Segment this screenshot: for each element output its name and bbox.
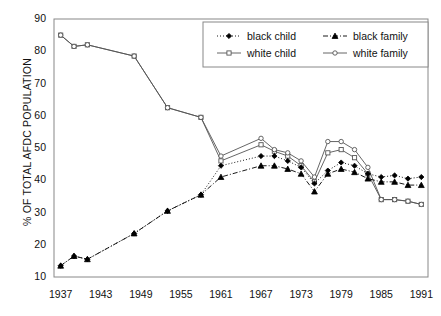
legend-label-black-family: black family [353,30,409,42]
series-layer [58,33,424,268]
afdc-population-line-chart: % OF TOTAL AFDC POPULATION 1020304050607… [0,0,441,316]
legend-label-white-family: white family [352,47,409,59]
legend-label-black-child: black child [247,30,296,42]
legend-box: black childblack familywhite childwhite … [203,22,428,67]
series-black-family [58,163,424,268]
plot-area: black childblack familywhite childwhite … [0,0,441,316]
legend-label-white-child: white child [246,47,296,59]
